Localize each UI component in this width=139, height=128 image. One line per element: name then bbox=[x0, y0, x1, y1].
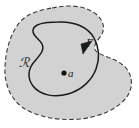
region-label: ℛ bbox=[19, 56, 29, 69]
figure-canvas: ℛ Γ a bbox=[0, 0, 139, 128]
interior-point-label: a bbox=[68, 68, 74, 79]
contour-label: Γ bbox=[86, 37, 93, 49]
interior-point-marker bbox=[61, 70, 66, 75]
